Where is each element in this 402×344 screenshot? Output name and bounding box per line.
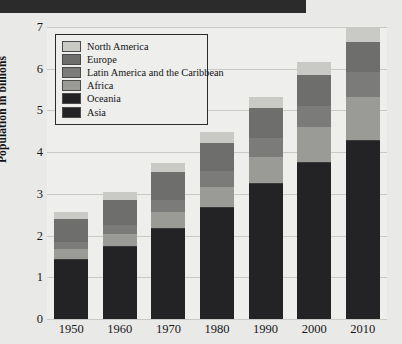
bar-segment-africa bbox=[200, 187, 234, 207]
y-tick-label-0: 0 bbox=[3, 312, 43, 327]
bar-1950[interactable] bbox=[54, 212, 88, 319]
legend-swatch-icon bbox=[62, 107, 81, 118]
bar-segment-north-america bbox=[297, 62, 331, 75]
bar-segment-africa bbox=[346, 97, 380, 140]
bar-1990[interactable] bbox=[249, 97, 283, 319]
bar-segment-north-america bbox=[249, 97, 283, 109]
bar-segment-latin-america-and-the-caribbean bbox=[200, 171, 234, 186]
y-tick-label-3: 3 bbox=[3, 186, 43, 201]
legend-label: Oceania bbox=[87, 93, 121, 104]
bar-segment-africa bbox=[54, 249, 88, 259]
bar-2010[interactable] bbox=[346, 27, 380, 319]
bar-segment-latin-america-and-the-caribbean bbox=[103, 225, 137, 234]
bar-segment-latin-america-and-the-caribbean bbox=[249, 138, 283, 156]
chart-legend: North AmericaEuropeLatin America and the… bbox=[55, 34, 208, 125]
y-tick-label-7: 7 bbox=[3, 20, 43, 35]
legend-item-oceania[interactable]: Oceania bbox=[62, 92, 200, 105]
legend-label: Africa bbox=[87, 80, 113, 91]
bar-segment-europe bbox=[200, 143, 234, 172]
bar-1970[interactable] bbox=[151, 163, 185, 319]
bar-segment-asia bbox=[249, 186, 283, 319]
legend-swatch-icon bbox=[62, 41, 81, 52]
legend-label: Asia bbox=[87, 107, 106, 118]
bar-segment-africa bbox=[103, 234, 137, 246]
y-tick-label-5: 5 bbox=[3, 103, 43, 118]
bar-segment-north-america bbox=[200, 132, 234, 142]
bar-segment-north-america bbox=[103, 192, 137, 200]
bar-segment-europe bbox=[346, 42, 380, 73]
gridline-7 bbox=[47, 27, 387, 28]
legend-item-latin-america-and-the-caribbean[interactable]: Latin America and the Caribbean bbox=[62, 66, 200, 79]
bar-segment-latin-america-and-the-caribbean bbox=[346, 72, 380, 97]
bar-segment-latin-america-and-the-caribbean bbox=[54, 242, 88, 249]
legend-swatch-icon bbox=[62, 93, 81, 104]
bar-segment-africa bbox=[297, 127, 331, 161]
x-tick-label-2010: 2010 bbox=[333, 322, 393, 337]
bar-segment-asia bbox=[103, 248, 137, 319]
bar-2000[interactable] bbox=[297, 62, 331, 319]
legend-label: North America bbox=[87, 41, 148, 52]
bar-segment-europe bbox=[103, 200, 137, 225]
bar-segment-asia bbox=[151, 229, 185, 319]
bar-segment-asia bbox=[200, 208, 234, 319]
legend-label: Europe bbox=[87, 54, 117, 65]
y-tick-label-6: 6 bbox=[3, 61, 43, 76]
bar-1980[interactable] bbox=[200, 132, 234, 319]
bar-segment-africa bbox=[151, 212, 185, 227]
bar-segment-north-america bbox=[346, 27, 380, 41]
y-tick-label-2: 2 bbox=[3, 228, 43, 243]
legend-label: Latin America and the Caribbean bbox=[87, 67, 224, 78]
bar-segment-latin-america-and-the-caribbean bbox=[151, 200, 185, 212]
bar-segment-europe bbox=[249, 108, 283, 138]
bar-segment-north-america bbox=[54, 212, 88, 219]
bar-segment-asia bbox=[346, 143, 380, 319]
bar-1960[interactable] bbox=[103, 192, 137, 319]
bar-segment-europe bbox=[54, 219, 88, 242]
y-tick-label-4: 4 bbox=[3, 145, 43, 160]
legend-swatch-icon bbox=[62, 67, 81, 78]
legend-item-europe[interactable]: Europe bbox=[62, 53, 200, 66]
legend-item-africa[interactable]: Africa bbox=[62, 79, 200, 92]
y-tick-label-1: 1 bbox=[3, 270, 43, 285]
bar-segment-north-america bbox=[151, 163, 185, 173]
bar-segment-latin-america-and-the-caribbean bbox=[297, 106, 331, 128]
bar-segment-europe bbox=[151, 172, 185, 200]
y-axis-ticks: 01234567 bbox=[0, 27, 43, 319]
top-banner bbox=[0, 0, 306, 13]
bar-segment-asia bbox=[297, 164, 331, 319]
gridline-0 bbox=[47, 319, 387, 320]
bar-segment-asia bbox=[54, 261, 88, 319]
legend-item-asia[interactable]: Asia bbox=[62, 105, 200, 118]
legend-item-north-america[interactable]: North America bbox=[62, 40, 200, 53]
legend-swatch-icon bbox=[62, 54, 81, 65]
bar-segment-africa bbox=[249, 157, 283, 184]
chart-figure: Population in billions 01234567 19501960… bbox=[0, 13, 402, 344]
bar-segment-europe bbox=[297, 75, 331, 105]
legend-swatch-icon bbox=[62, 80, 81, 91]
